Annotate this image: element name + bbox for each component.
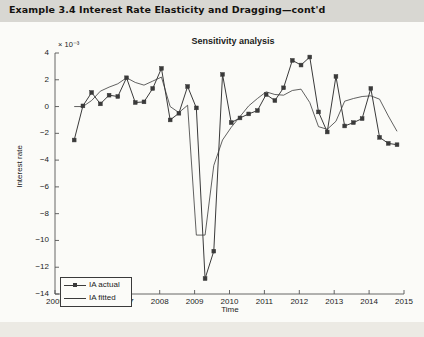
data-point-marker (160, 67, 164, 71)
data-point-marker (299, 63, 303, 67)
legend-label-ia-actual: IA actual (89, 280, 120, 289)
page-body: Sensitivity analysis × 10⁻³ Interest rat… (0, 22, 424, 337)
data-point-marker (72, 138, 76, 142)
data-point-marker (212, 249, 216, 253)
scan-page-shadow (0, 322, 424, 337)
data-point-marker (308, 55, 312, 59)
example-heading: Example 3.4 Interest Rate Elasticity and… (9, 4, 325, 15)
legend-item-ia-actual: IA actual (64, 279, 130, 292)
series-line-ia-actual (74, 57, 397, 279)
data-point-marker (378, 135, 382, 139)
data-point-marker (386, 141, 390, 145)
data-point-marker (290, 58, 294, 62)
chart-figure: Sensitivity analysis × 10⁻³ Interest rat… (0, 22, 424, 322)
data-point-marker (229, 121, 233, 125)
data-series-group (72, 55, 399, 280)
data-point-marker (203, 277, 207, 281)
data-point-marker (116, 95, 120, 99)
series-line-ia-fitted (74, 77, 397, 235)
data-point-marker (334, 75, 338, 79)
data-point-marker (369, 87, 373, 91)
data-point-marker (317, 110, 321, 114)
data-point-marker (343, 124, 347, 128)
data-point-marker (168, 118, 172, 122)
data-point-marker (107, 93, 111, 97)
axes-group (55, 53, 404, 294)
chart-legend: IA actual IA fitted (60, 277, 132, 307)
data-point-marker (273, 99, 277, 103)
data-point-marker (151, 87, 155, 91)
data-point-marker (221, 73, 225, 77)
data-point-marker (360, 117, 364, 121)
figure-page: Example 3.4 Interest Rate Elasticity and… (0, 0, 424, 337)
legend-line-sample-icon (64, 298, 86, 299)
data-point-marker (90, 91, 94, 95)
data-point-marker (98, 102, 102, 106)
legend-label-ia-fitted: IA fitted (89, 293, 116, 302)
axis-lines (55, 53, 404, 294)
data-point-marker (186, 85, 190, 89)
data-point-marker (282, 86, 286, 90)
data-point-marker (194, 106, 198, 110)
data-point-marker (325, 130, 329, 134)
data-point-marker (133, 101, 137, 105)
data-point-marker (142, 100, 146, 104)
legend-square-marker-icon (73, 283, 77, 287)
legend-item-ia-fitted: IA fitted (64, 292, 130, 305)
data-point-marker (256, 109, 260, 113)
data-point-marker (395, 143, 399, 147)
data-point-marker (247, 112, 251, 116)
data-point-marker (351, 121, 355, 125)
